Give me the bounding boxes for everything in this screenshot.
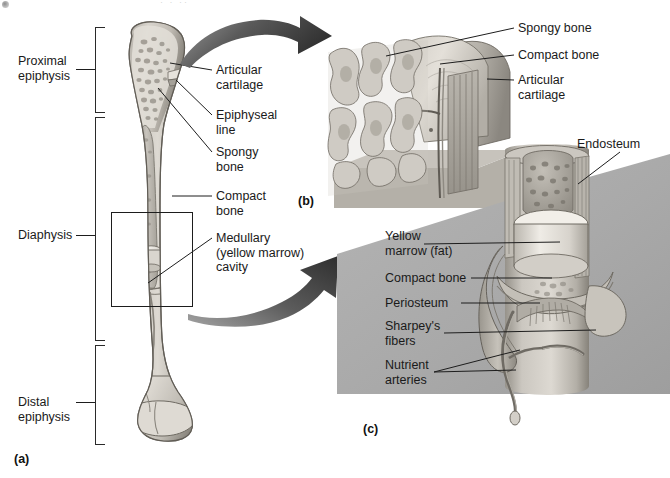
bone-anatomy-figure: · · ·· — [0, 0, 670, 478]
panel-tag-c: (c) — [363, 422, 378, 436]
callout-sharpeys-fibers-c: Sharpey's fibers — [385, 319, 440, 348]
callout-compact-bone-c: Compact bone — [385, 271, 466, 286]
panel-c-leader-lines — [0, 0, 670, 478]
callout-periosteum-c: Periosteum — [385, 296, 448, 311]
callout-endosteum-c: Endosteum — [577, 137, 640, 152]
callout-yellow-marrow-c: Yellow marrow (fat) — [385, 229, 452, 258]
callout-nutrient-arteries-c: Nutrient arteries — [385, 358, 429, 387]
